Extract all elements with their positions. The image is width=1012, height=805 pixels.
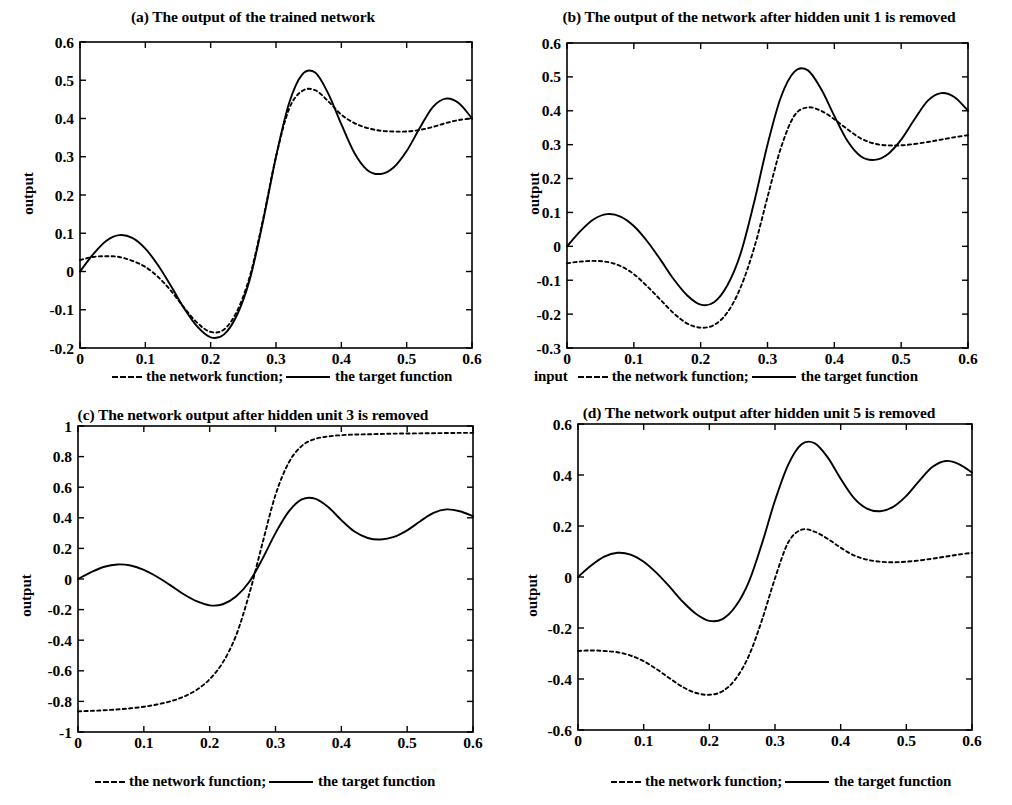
y-tick-label: -0.4 (47, 632, 72, 649)
network-function-curve (78, 433, 473, 711)
panel-b-legend: inputthe network function;the target fun… (534, 368, 918, 385)
y-tick-label: 0.6 (542, 35, 562, 52)
y-tick-label: 0 (564, 569, 572, 586)
legend-dash-label: the network function; (129, 773, 266, 789)
panel-b-axes: 00.10.20.30.40.50.6-0.3-0.2-0.100.10.20.… (506, 0, 1012, 402)
y-tick-label: 0 (553, 238, 561, 255)
y-tick-label: 0.5 (542, 68, 562, 85)
legend-solid-label: the target function (335, 368, 452, 384)
panel-a: (a) The output of the trained network ou… (0, 0, 506, 402)
panel-c: (c) The network output after hidden unit… (0, 402, 506, 804)
network-function-curve (578, 529, 972, 695)
y-tick-label: 0.4 (53, 509, 73, 526)
x-tick-label: 0.2 (201, 350, 221, 367)
x-tick-label: 0.6 (463, 734, 483, 751)
x-tick-label: 0.3 (765, 732, 785, 749)
y-tick-label: -0.8 (47, 693, 72, 710)
dashed-line-swatch-icon (578, 376, 608, 378)
target-function-curve (78, 498, 473, 606)
y-tick-label: 0.2 (553, 518, 573, 535)
y-tick-label: 0.4 (542, 102, 562, 119)
legend-solid-label: the target function (801, 368, 918, 384)
x-tick-label: 0.5 (897, 732, 917, 749)
y-tick-label: -0.3 (536, 340, 561, 357)
panel-b-plot: 00.10.20.30.40.50.6-0.3-0.2-0.100.10.20.… (506, 0, 1012, 402)
x-tick-label: 0 (76, 350, 84, 367)
figure-grid: (a) The output of the trained network ou… (0, 0, 1012, 805)
panel-d-axes: 00.10.20.30.40.50.6-0.6-0.4-0.200.20.40.… (506, 402, 1012, 805)
legend-dash-label: the network function; (645, 773, 782, 789)
panel-d-legend: the network function;the target function (611, 773, 951, 790)
dashed-line-swatch-icon (112, 376, 142, 378)
dashed-line-swatch-icon (611, 781, 641, 783)
panel-b-xlabel: input (534, 368, 568, 384)
y-tick-label: 1 (64, 418, 72, 435)
panel-c-axes: 00.10.20.30.40.50.6-1-0.8-0.6-0.4-0.200.… (0, 402, 506, 805)
panel-a-axes: 00.10.20.30.40.50.6-0.2-0.100.10.20.30.4… (0, 0, 506, 402)
plot-frame (78, 426, 473, 732)
x-tick-label: 0.2 (691, 350, 711, 367)
x-tick-label: 0.5 (397, 350, 417, 367)
x-tick-label: 0.4 (332, 734, 352, 751)
legend-dash-label: the network function; (146, 368, 283, 384)
y-tick-label: 0 (64, 571, 72, 588)
y-tick-label: 0.5 (55, 72, 75, 89)
target-function-curve (80, 70, 472, 338)
x-tick-label: 0.1 (134, 734, 153, 751)
y-tick-label: 0.4 (553, 467, 573, 484)
solid-line-swatch-icon (286, 376, 330, 378)
y-tick-label: -0.2 (547, 620, 572, 637)
y-tick-label: 0.2 (55, 187, 75, 204)
solid-line-swatch-icon (269, 781, 313, 783)
panel-b: (b) The output of the network after hidd… (506, 0, 1012, 402)
x-tick-label: 0.5 (891, 350, 911, 367)
y-tick-label: 0.4 (55, 110, 75, 127)
y-tick-label: -0.6 (547, 722, 572, 739)
x-tick-label: 0.4 (332, 350, 352, 367)
legend-dash-label: the network function; (612, 368, 749, 384)
x-tick-label: 0.2 (200, 734, 220, 751)
x-tick-label: 0.2 (700, 732, 720, 749)
y-tick-label: 0.6 (55, 34, 75, 51)
panel-a-plot: 00.10.20.30.40.50.6-0.2-0.100.10.20.30.4… (0, 0, 506, 402)
x-tick-label: 0.6 (462, 350, 482, 367)
x-tick-label: 0.1 (624, 350, 643, 367)
panel-a-legend: the network function;the target function (112, 368, 452, 385)
y-tick-label: 0.2 (542, 170, 562, 187)
y-tick-label: 0.3 (55, 148, 75, 165)
x-tick-label: 0.1 (634, 732, 653, 749)
x-tick-label: 0.6 (958, 350, 978, 367)
y-tick-label: 0.6 (553, 416, 573, 433)
panel-c-legend: the network function;the target function (95, 773, 435, 790)
y-tick-label: 0.1 (55, 225, 74, 242)
y-tick-label: 0 (66, 263, 74, 280)
network-function-curve (567, 107, 968, 328)
plot-frame (80, 42, 472, 348)
y-tick-label: -1 (59, 724, 72, 741)
x-tick-label: 0 (574, 732, 582, 749)
x-tick-label: 0.6 (962, 732, 982, 749)
x-tick-label: 0.3 (266, 734, 286, 751)
solid-line-swatch-icon (752, 376, 796, 378)
y-tick-label: 0.3 (542, 136, 562, 153)
y-tick-label: -0.1 (49, 301, 74, 318)
x-tick-label: 0 (74, 734, 82, 751)
target-function-curve (578, 442, 972, 622)
x-tick-label: 0.4 (825, 350, 845, 367)
x-tick-label: 0.1 (136, 350, 155, 367)
y-tick-label: -0.1 (536, 272, 561, 289)
solid-line-swatch-icon (785, 781, 829, 783)
panel-d: (d) The network output after hidden unit… (506, 402, 1012, 804)
network-function-curve (80, 89, 472, 333)
panel-d-plot: 00.10.20.30.40.50.6-0.6-0.4-0.200.20.40.… (506, 402, 1012, 805)
x-tick-label: 0.3 (758, 350, 778, 367)
target-function-curve (567, 68, 968, 305)
y-tick-label: 0.2 (53, 540, 73, 557)
dashed-line-swatch-icon (95, 781, 125, 783)
y-tick-label: -0.6 (47, 662, 72, 679)
legend-solid-label: the target function (318, 773, 435, 789)
y-tick-label: -0.2 (47, 601, 72, 618)
y-tick-label: -0.2 (536, 306, 561, 323)
x-tick-label: 0.4 (831, 732, 851, 749)
x-tick-label: 0 (563, 350, 571, 367)
